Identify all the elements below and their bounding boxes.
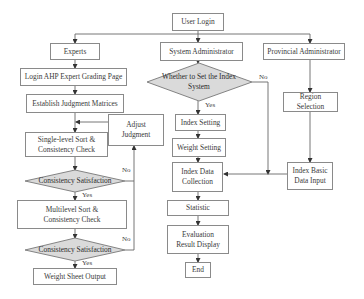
- decision-consistency-2: Consistency Satisfaction: [25, 239, 125, 261]
- decision-set-index-system: Whether to Set the Index System: [162, 70, 236, 94]
- edge-label-no-consistency-1: No: [122, 166, 131, 174]
- node-statistic: Statistic: [167, 200, 229, 216]
- edge-label-no-consistency-2: No: [122, 235, 131, 243]
- edge-label-yes-index-system: Yes: [205, 101, 215, 109]
- node-adjust-judgment: Adjust Judgment: [108, 114, 164, 146]
- node-login-ahp: Login AHP Expert Grading Page: [20, 68, 127, 86]
- node-user-login: User Login: [172, 13, 224, 31]
- edge-label-yes-consistency-2: Yes: [82, 259, 92, 267]
- node-establish-matrices: Establish Judgment Matrices: [26, 94, 124, 113]
- node-index-setting: Index Setting: [175, 114, 226, 131]
- node-weight-setting: Weight Setting: [172, 138, 226, 157]
- edge-label-yes-consistency-1: Yes: [82, 191, 92, 199]
- node-evaluation-result-display: Evaluation Result Display: [167, 225, 229, 254]
- node-region-selection: Region Selection: [283, 92, 338, 112]
- node-single-level-sort: Single-level Sort & Consistency Check: [25, 132, 108, 157]
- edge-label-no-index-system: No: [259, 73, 268, 81]
- node-end: End: [185, 262, 211, 278]
- decision-consistency-1: Consistency Satisfaction: [25, 170, 125, 192]
- node-weight-sheet-output: Weight Sheet Output: [33, 268, 117, 285]
- node-index-basic-data-input: Index Basic Data Input: [287, 162, 333, 190]
- node-index-data-collection: Index Data Collection: [172, 162, 223, 192]
- node-experts: Experts: [50, 43, 100, 60]
- node-provincial-administrator: Provincial Administrator: [263, 43, 345, 60]
- flowchart-canvas: User Login Experts System Administrator …: [0, 0, 364, 299]
- node-multilevel-sort: Multilevel Sort & Consistency Check: [17, 200, 127, 229]
- node-system-administrator: System Administrator: [160, 42, 243, 61]
